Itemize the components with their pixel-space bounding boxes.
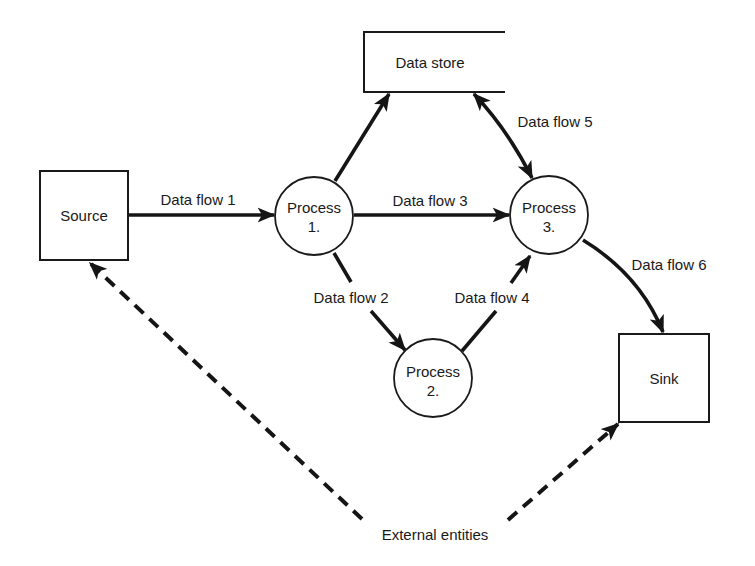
data-flow-1-label: Data flow 1 [160,191,235,208]
data-flow-4-label: Data flow 4 [454,289,529,306]
process-1-label: Process [287,199,341,216]
data-flow-2-label: Data flow 2 [313,289,388,306]
data-flow-3: Data flow 3 [354,192,509,215]
sink-label: Sink [649,370,679,387]
data-flow-3-label: Data flow 3 [392,192,467,209]
data-flow-6: Data flow 6 [583,240,707,332]
data-flow-6-label: Data flow 6 [631,256,706,273]
process-1-to-store-arrow [335,94,389,181]
process-3-number: 3. [543,218,556,235]
process-2-label: Process [406,363,460,380]
data-flow-4-arrow [511,256,530,283]
data-flow-4-segment [462,311,496,351]
data-flow-5-label: Data flow 5 [517,113,592,130]
data-flow-2-segment [334,253,351,282]
data-flow-2: Data flow 2 [313,253,405,350]
process-1: Process 1. [275,177,353,255]
data-flow-2-arrow [371,311,405,350]
data-flow-4: Data flow 4 [454,256,530,351]
source-label: Source [60,207,108,224]
process-3: Process 3. [510,176,588,254]
process-2-number: 2. [427,382,440,399]
data-flow-diagram: Source Data store Sink Process 1. Proces… [0,0,755,566]
data-flow-6-arrow [583,240,663,332]
source-entity: Source [40,171,128,260]
sink-entity: Sink [619,334,709,422]
data-flow-1: Data flow 1 [129,191,274,215]
external-to-sink-dashed-arrow [508,424,618,520]
data-store: Data store [364,32,505,92]
data-flow-to-store [335,94,389,181]
data-flow-5-arrow [474,94,532,178]
external-entities-label: External entities [382,526,489,543]
data-store-label: Data store [395,54,464,71]
process-2: Process 2. [394,339,472,417]
process-1-circle [275,177,353,255]
data-flow-5: Data flow 5 [474,94,593,178]
process-3-label: Process [522,199,576,216]
process-1-number: 1. [308,218,321,235]
